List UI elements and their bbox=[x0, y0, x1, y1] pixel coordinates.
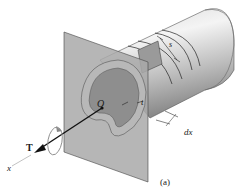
arc-length-label: s bbox=[169, 41, 172, 49]
thickness-label: t bbox=[141, 98, 144, 107]
axis-label: x bbox=[7, 164, 11, 173]
torque-label: T bbox=[26, 143, 33, 153]
dx-label: dx bbox=[184, 128, 193, 137]
x-axis bbox=[12, 155, 31, 166]
origin-label: O bbox=[97, 99, 104, 109]
figure-caption: (a) bbox=[160, 178, 170, 187]
torque-rotation-icon bbox=[46, 126, 65, 156]
thin-walled-tube-diagram bbox=[0, 0, 235, 192]
